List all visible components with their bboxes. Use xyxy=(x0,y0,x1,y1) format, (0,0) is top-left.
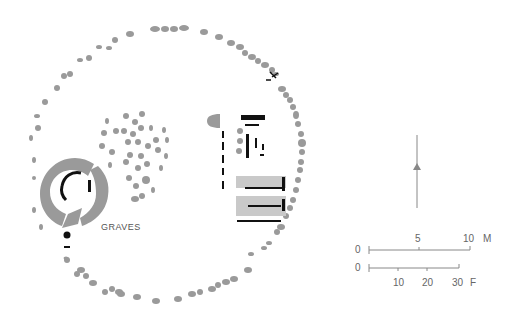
scale-feet-10: 10 xyxy=(393,277,405,288)
north-arrow-icon xyxy=(413,135,421,208)
grave-ring xyxy=(40,158,109,260)
scale-metric-unit: M xyxy=(483,233,491,244)
scale-metric-mid: 5 xyxy=(415,233,421,244)
scale-bar-metric: 0 5 10 M xyxy=(355,233,491,255)
scale-feet-20: 20 xyxy=(422,277,434,288)
scale-feet-30: 30 xyxy=(452,277,464,288)
graves-label: GRAVES xyxy=(101,222,141,232)
scale-feet-zero: 0 xyxy=(355,262,361,273)
structure-features xyxy=(207,72,286,222)
scale-bar-feet: 0 10 20 30 F xyxy=(355,262,476,288)
scale-feet-unit: F xyxy=(470,277,476,288)
scale-metric-end: 10 xyxy=(463,233,475,244)
scale-metric-zero: 0 xyxy=(355,244,361,255)
graves-stones xyxy=(99,111,169,202)
site-plan: GRAVES 0 5 10 M 0 10 20 30 F xyxy=(0,0,519,315)
